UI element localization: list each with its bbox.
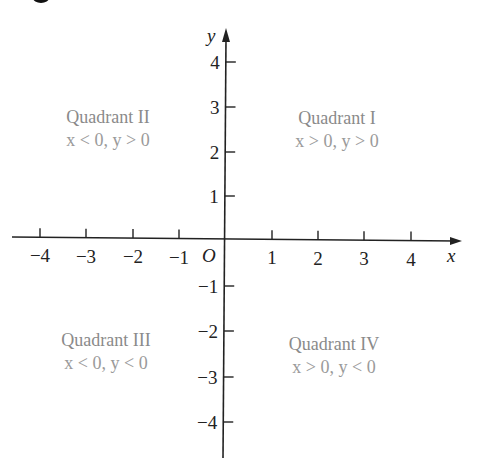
quadrant-condition: x > 0, y > 0 (295, 131, 378, 151)
y-tick-label: −2 (198, 321, 218, 342)
x-tick-label: −4 (30, 245, 51, 266)
coordinate-plane: −4−3−2−11234 x 4321−1−2−3−4 y O Quadrant… (0, 0, 477, 474)
y-axis-label: y (205, 25, 216, 46)
y-tick-label: −1 (198, 276, 218, 297)
quadrant-condition: x < 0, y < 0 (64, 353, 147, 373)
y-ticks: 4321−1−2−3−4 (197, 52, 236, 433)
y-tick-label: 3 (210, 97, 220, 118)
x-axis-label: x (446, 245, 456, 266)
y-tick-label: −4 (197, 412, 218, 433)
x-tick-label: −3 (76, 246, 96, 267)
x-tick-label: −2 (123, 246, 143, 267)
quadrant-condition: x > 0, y < 0 (292, 357, 375, 377)
x-axis-arrow-icon (450, 237, 462, 245)
x-tick-label: 4 (406, 249, 416, 270)
y-tick-label: −3 (197, 367, 217, 388)
quadrant-ii: Quadrant II x < 0, y > 0 (66, 107, 149, 150)
origin-label: O (202, 245, 216, 266)
x-tick-label: −1 (169, 247, 189, 268)
x-tick-label: 3 (359, 248, 369, 269)
quadrant-title: Quadrant II (66, 107, 149, 127)
y-tick-label: 1 (209, 186, 219, 207)
quadrant-condition: x < 0, y > 0 (66, 130, 149, 150)
quadrant-iii: Quadrant III x < 0, y < 0 (61, 330, 150, 373)
quadrant-title: Quadrant I (298, 108, 375, 128)
y-axis: 4321−1−2−3−4 y (197, 25, 236, 458)
quadrant-title: Quadrant IV (289, 334, 379, 354)
quadrant-i: Quadrant I x > 0, y > 0 (295, 108, 378, 151)
x-ticks: −4−3−2−11234 (30, 228, 416, 269)
y-tick-label: 2 (210, 142, 220, 163)
y-tick-label: 4 (210, 52, 220, 73)
quadrant-iv: Quadrant IV x > 0, y < 0 (289, 334, 379, 377)
x-tick-label: 1 (267, 247, 277, 268)
figure-label-fragment (33, 0, 49, 3)
y-axis-arrow-icon (222, 28, 230, 42)
x-axis: −4−3−2−11234 x (12, 228, 462, 269)
x-tick-label: 2 (313, 248, 323, 269)
quadrant-title: Quadrant III (61, 330, 150, 350)
